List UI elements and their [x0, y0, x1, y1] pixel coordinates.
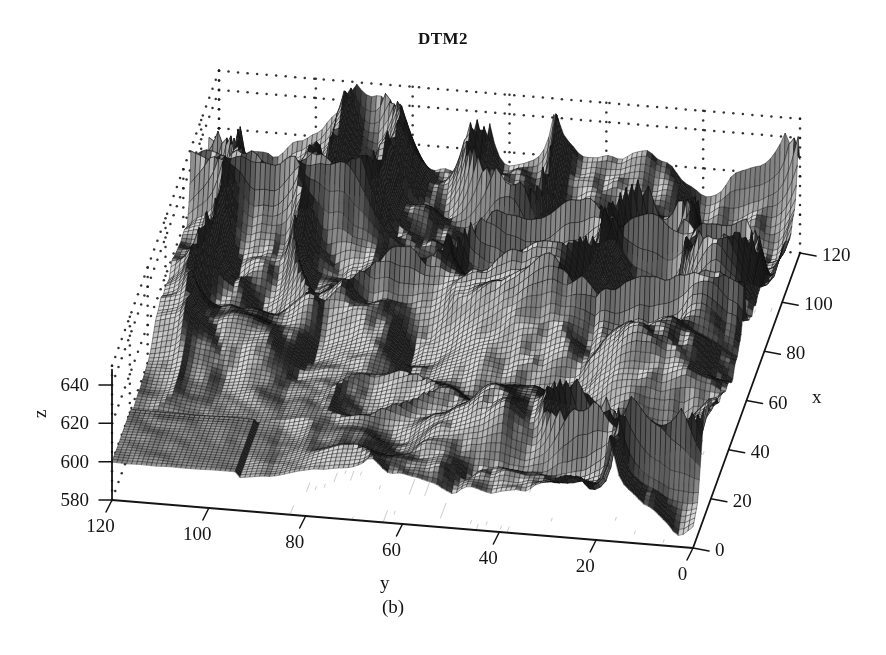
- x-tick-100: 100: [804, 294, 833, 313]
- x-tick-120: 120: [822, 245, 851, 264]
- z-tick-640: 640: [61, 375, 90, 394]
- x-tick-0: 0: [715, 540, 725, 559]
- y-tick-60: 60: [382, 540, 401, 559]
- y-tick-0: 0: [678, 564, 688, 583]
- z-tick-600: 600: [61, 452, 90, 471]
- y-tick-100: 100: [183, 524, 212, 543]
- y-axis-label: y: [380, 573, 390, 592]
- page-title: DTM2: [0, 30, 886, 47]
- subfigure-caption: (b): [382, 597, 404, 616]
- y-tick-40: 40: [479, 548, 498, 567]
- x-axis-label: x: [812, 387, 822, 406]
- z-tick-580: 580: [61, 490, 90, 509]
- x-tick-40: 40: [751, 442, 770, 461]
- x-tick-20: 20: [733, 491, 752, 510]
- surface-plot-canvas: [0, 0, 886, 655]
- z-tick-620: 620: [61, 413, 90, 432]
- y-tick-120: 120: [86, 516, 115, 535]
- x-tick-60: 60: [769, 393, 788, 412]
- x-tick-80: 80: [786, 343, 805, 362]
- y-tick-20: 20: [576, 556, 595, 575]
- z-axis-label: z: [30, 410, 49, 418]
- y-tick-80: 80: [285, 532, 304, 551]
- figure-container: DTM2 z y x (b) 0204060801001200204060801…: [0, 0, 886, 655]
